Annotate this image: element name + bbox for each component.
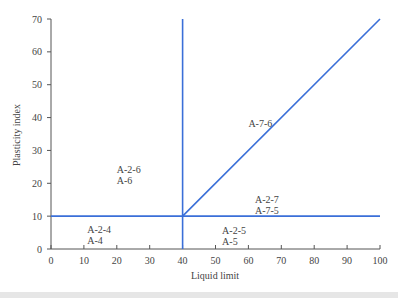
y-axis-label: Plasticity index — [11, 104, 22, 166]
y-tick-label: 30 — [32, 145, 42, 156]
x-tick-label: 60 — [243, 255, 253, 266]
x-tick-label: 50 — [211, 255, 221, 266]
x-tick-label: 10 — [79, 255, 89, 266]
y-tick-label: 0 — [37, 244, 42, 255]
x-tick-label: 0 — [49, 255, 54, 266]
axes: 0102030405060708090100010203040506070 — [32, 14, 388, 267]
zone-label: A-2-5A-5 — [222, 225, 246, 247]
zone-label: A-2-4A-4 — [87, 224, 111, 246]
x-tick-label: 30 — [145, 255, 155, 266]
x-tick-label: 20 — [112, 255, 122, 266]
x-tick-label: 90 — [342, 255, 352, 266]
boundary-line — [183, 19, 380, 216]
y-tick-label: 10 — [32, 211, 42, 222]
x-tick-label: 100 — [373, 255, 388, 266]
x-axis-label: Liquid limit — [191, 270, 239, 281]
zone-label: A-2-6A-6 — [117, 164, 141, 186]
y-tick-label: 60 — [32, 46, 42, 57]
x-tick-label: 70 — [276, 255, 286, 266]
zone-label: A-2-7A-7-5 — [255, 194, 279, 216]
boundary-lines — [51, 19, 380, 249]
y-tick-label: 70 — [32, 14, 42, 25]
caption-blurred — [0, 292, 398, 298]
y-tick-label: 50 — [32, 79, 42, 90]
y-tick-label: 20 — [32, 178, 42, 189]
plasticity-chart: 0102030405060708090100010203040506070 A-… — [0, 0, 398, 300]
y-tick-label: 40 — [32, 112, 42, 123]
x-tick-label: 40 — [178, 255, 188, 266]
zone-label: A-7-6 — [248, 118, 272, 129]
x-tick-label: 80 — [309, 255, 319, 266]
